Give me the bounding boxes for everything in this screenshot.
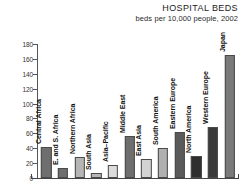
bar [174,132,184,178]
bar [191,156,201,178]
y-tick-label: 160 [22,55,33,62]
y-tick-label: 40 [26,145,33,152]
bar-category-label: E. and S. Africa [52,115,59,165]
bar-group: Middle East [121,44,138,178]
y-tick-mark [33,59,37,60]
y-tick-mark [33,148,37,149]
y-axis: 020406080100120140160180 [16,44,36,178]
y-tick-mark [33,89,37,90]
bar [41,147,51,178]
bar-category-label: Middle East [119,95,126,133]
bar-category-label: North America [185,106,192,153]
x-axis-left-cap [31,174,32,179]
bar-category-label: South America [152,97,159,146]
bar [58,168,68,178]
y-tick-label: 120 [22,85,33,92]
y-tick-mark [33,163,37,164]
bar-group: Japan [221,44,238,178]
bar-category-label: Western Europe [202,72,209,125]
hospital-beds-chart: HOSPITAL BEDS beds per 10,000 people, 20… [0,0,244,186]
bar-category-label: Japan [219,32,226,52]
bar-category-label: Asia–Pacific [102,122,109,163]
bar [141,159,151,178]
y-tick-label: 80 [26,115,33,122]
y-tick-label: 140 [22,70,33,77]
bar [108,165,118,178]
y-tick-mark [33,44,37,45]
bar [224,55,234,178]
bar [124,136,134,178]
y-tick-label: 100 [22,100,33,107]
x-axis-line [31,178,239,179]
bar-category-label: Eastern Europe [169,78,176,129]
y-tick-label: 60 [26,130,33,137]
bars-container: Central AfricaE. and S. AfricaNorthern A… [38,44,238,178]
bar-category-label: South Asia [85,134,92,170]
y-tick-label: 180 [22,41,33,48]
bar [158,148,168,178]
chart-subtitle: beds per 10,000 people, 2002 [136,15,238,24]
bar-group: Western Europe [205,44,222,178]
page-title: HOSPITAL BEDS [136,3,238,13]
y-tick-mark [33,74,37,75]
bar-category-label: Central Africa [35,99,42,144]
y-tick-label: 20 [26,160,33,167]
bar-category-label: East Asia [135,126,142,157]
plot-area: 020406080100120140160180 Central AfricaE… [0,44,244,186]
chart-title-block: HOSPITAL BEDS beds per 10,000 people, 20… [136,3,238,24]
bar [208,127,218,178]
bar [74,157,84,178]
bar-category-label: Northern Africa [69,104,76,154]
x-axis-right-cap [238,174,239,179]
